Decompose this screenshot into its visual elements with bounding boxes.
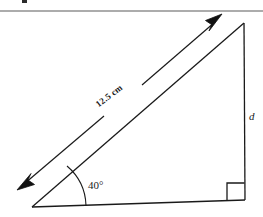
arrow-shaft-upper [142,22,215,85]
arrow-shaft-lower [24,116,104,184]
opposite-side-label: d [249,111,255,122]
triangle-vertical-side [244,23,245,200]
angle-arc-icon [67,166,86,205]
base-angle-label: 40° [88,180,103,191]
right-angle-marker [227,183,245,201]
triangle-diagram-svg [0,0,263,217]
geometry-figure: 12.5 cm 40° d [0,0,263,217]
arrowhead-lower-left-icon [17,174,35,191]
triangle-base-line [32,200,245,207]
triangle-hypotenuse [32,23,244,207]
